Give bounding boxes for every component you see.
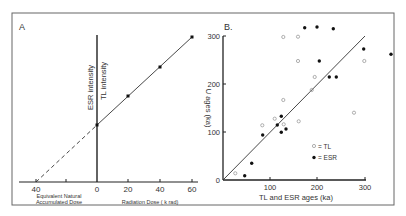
tl-point: [313, 75, 316, 78]
esr-point: [328, 75, 331, 78]
data-point: [191, 36, 194, 39]
esr-point: [261, 133, 264, 136]
panel-b-y-label: U ages (ka): [204, 89, 213, 128]
extrapolation-line: [36, 125, 97, 182]
tl-point: [273, 117, 276, 120]
esr-point: [243, 174, 246, 177]
legend-tl-marker: [312, 144, 315, 147]
esr-point: [362, 47, 365, 50]
tl-point: [261, 124, 264, 127]
tl-series: [234, 35, 366, 175]
esr-intensity-label: ESR intensity: [86, 65, 95, 110]
one-to-one-line: [223, 36, 365, 180]
tick-label: 300: [207, 32, 220, 41]
esr-point: [280, 131, 283, 134]
legend-esr-marker: [312, 156, 315, 159]
esr-point: [315, 25, 318, 28]
tl-point: [296, 35, 299, 38]
tl-point: [363, 59, 366, 62]
panel-a: A 40 0 20 40 60 Equivalent Natural Accum…: [19, 22, 198, 205]
esr-point: [332, 27, 335, 30]
tick-label: 100: [264, 183, 277, 192]
tl-point: [282, 98, 285, 101]
esr-point: [276, 123, 279, 126]
tick-label: 200: [311, 183, 324, 192]
data-point: [159, 66, 162, 69]
growth-line: [97, 37, 192, 125]
accumulated-dose-label: Accumulated Dose: [36, 199, 82, 205]
tick-label: 0: [216, 176, 220, 185]
esr-point: [250, 162, 253, 165]
esr-point: [303, 26, 306, 29]
panel-a-x-label: Radiation Dose ( k rad): [122, 199, 179, 205]
data-point: [127, 95, 130, 98]
figure-frame: [12, 13, 394, 205]
tick-label: 40: [156, 185, 165, 194]
tl-point: [296, 59, 299, 62]
panel-a-title: A: [19, 22, 25, 32]
esr-point: [284, 127, 287, 130]
tl-point: [234, 172, 237, 175]
legend-esr-label: = ESR: [318, 154, 337, 161]
panel-b-title: B.: [224, 22, 233, 32]
tl-point: [282, 123, 285, 126]
legend: = TL = ESR: [312, 143, 337, 162]
tick-label: 20: [124, 185, 133, 194]
tl-point: [282, 35, 285, 38]
esr-point: [389, 53, 392, 56]
legend-tl-label: = TL: [318, 143, 331, 150]
tick-label: 300: [359, 183, 372, 192]
tl-point: [352, 111, 355, 114]
figure: A 40 0 20 40 60 Equivalent Natural Accum…: [0, 0, 406, 216]
panel-b: B. 300 200 100 0 100 200 300 TL and ESR …: [204, 22, 393, 202]
tl-intensity-label: TL intensity: [99, 62, 108, 100]
esr-point: [280, 115, 283, 118]
tick-label: 100: [207, 128, 220, 137]
tl-point: [297, 120, 300, 123]
data-point: [96, 124, 99, 127]
tick-label: 60: [188, 185, 197, 194]
esr-point: [335, 75, 338, 78]
esr-point: [318, 59, 321, 62]
tick-label: 0: [95, 185, 100, 194]
panel-b-x-label: TL and ESR ages (ka): [259, 193, 333, 202]
